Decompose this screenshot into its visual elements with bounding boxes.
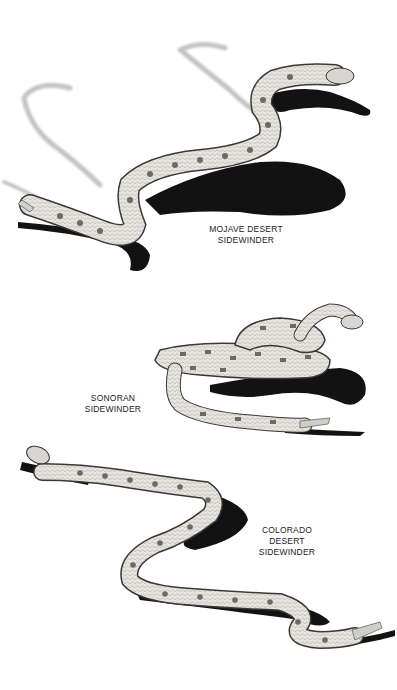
label-line: SONORAN: [78, 393, 148, 404]
sonoran-sidewinder-illustration: [155, 310, 366, 436]
snake-shadow: [18, 89, 370, 271]
label-sonoran-sidewinder: SONORAN SIDEWINDER: [78, 393, 148, 415]
label-colorado-desert-sidewinder: COLORADO DESERT SIDEWINDER: [252, 525, 322, 558]
label-line: COLORADO: [252, 525, 322, 536]
illustration-canvas: [0, 0, 397, 690]
snake-head: [326, 68, 354, 84]
colorado-desert-sidewinder-illustration: [20, 443, 395, 646]
label-line: SIDEWINDER: [252, 547, 322, 558]
label-line: SIDEWINDER: [78, 404, 148, 415]
label-line: DESERT: [252, 536, 322, 547]
label-line: SIDEWINDER: [197, 235, 295, 246]
label-mojave-desert-sidewinder: MOJAVE DESERT SIDEWINDER: [197, 224, 295, 246]
mojave-sidewinder-illustration: [4, 44, 370, 271]
snake-head: [341, 315, 363, 329]
label-line: MOJAVE DESERT: [197, 224, 295, 235]
